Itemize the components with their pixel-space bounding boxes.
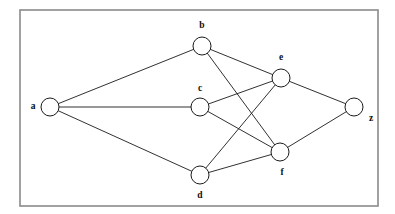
graph-edge-c-e bbox=[208, 81, 272, 104]
graph-svg: abcdefz bbox=[0, 0, 395, 214]
graph-node-z[interactable] bbox=[345, 98, 363, 116]
graph-node-d[interactable] bbox=[191, 166, 209, 184]
node-layer bbox=[41, 37, 363, 184]
graph-node-e[interactable] bbox=[272, 69, 290, 87]
graph-edge-a-b bbox=[58, 49, 193, 103]
node-label-d: d bbox=[197, 190, 203, 200]
graph-edge-d-e bbox=[206, 85, 275, 168]
node-label-f: f bbox=[280, 167, 284, 177]
graph-edge-d-f bbox=[209, 154, 272, 172]
graph-edge-e-z bbox=[289, 81, 345, 103]
node-label-z: z bbox=[369, 113, 374, 123]
graph-node-a[interactable] bbox=[41, 98, 59, 116]
graph-node-f[interactable] bbox=[271, 143, 289, 161]
graph-edge-f-z bbox=[288, 112, 347, 148]
graph-edge-a-d bbox=[58, 111, 192, 172]
node-label-a: a bbox=[31, 101, 36, 111]
graph-edge-b-e bbox=[210, 49, 272, 74]
graph-node-c[interactable] bbox=[191, 98, 209, 116]
node-label-b: b bbox=[199, 20, 204, 30]
node-label-e: e bbox=[279, 52, 283, 62]
graph-edge-b-f bbox=[207, 53, 274, 145]
node-label-c: c bbox=[198, 83, 202, 93]
graph-edge-c-f bbox=[208, 111, 272, 147]
diagram-canvas: abcdefz bbox=[0, 0, 395, 214]
graph-node-b[interactable] bbox=[193, 37, 211, 55]
